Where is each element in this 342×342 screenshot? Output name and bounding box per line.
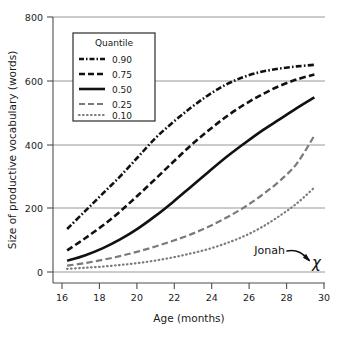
legend: Quantile 0.90 0.75 0.50 <box>73 33 155 121</box>
legend-title: Quantile <box>95 38 134 48</box>
y-axis-title: Size of productive vocabulary (words) <box>6 51 18 250</box>
x-tick-label-18: 18 <box>93 292 105 303</box>
y-tick-label-0: 0 <box>37 267 43 278</box>
jonah-data-point-marker: χ <box>311 254 322 272</box>
x-axis-tick-labels: 16 18 20 22 24 26 28 30 <box>56 292 330 303</box>
series-line-0.50 <box>67 97 314 261</box>
chart-figure: 800 600 400 200 0 16 18 20 22 24 26 28 3… <box>0 0 342 342</box>
x-tick-label-16: 16 <box>56 292 68 303</box>
jonah-label: Jonah <box>253 244 285 257</box>
x-tick-label-22: 22 <box>168 292 180 303</box>
legend-label-0.10: 0.10 <box>112 111 132 121</box>
x-tick-label-28: 28 <box>281 292 293 303</box>
quantile-growth-chart: 800 600 400 200 0 16 18 20 22 24 26 28 3… <box>0 0 342 342</box>
y-axis-tick-labels: 800 600 400 200 0 <box>25 12 43 278</box>
x-tick-label-24: 24 <box>206 292 218 303</box>
x-axis-ticks <box>62 283 324 289</box>
legend-label-0.50: 0.50 <box>112 85 132 95</box>
y-tick-label-200: 200 <box>25 203 43 214</box>
x-tick-label-30: 30 <box>318 292 330 303</box>
jonah-annotation: Jonah χ <box>253 244 322 272</box>
y-tick-label-400: 400 <box>25 140 43 151</box>
legend-label-0.25: 0.25 <box>112 100 132 110</box>
y-axis-ticks <box>47 17 53 272</box>
y-tick-label-800: 800 <box>25 12 43 23</box>
x-tick-label-26: 26 <box>243 292 255 303</box>
y-tick-label-600: 600 <box>25 76 43 87</box>
legend-label-0.75: 0.75 <box>112 70 132 80</box>
legend-label-0.90: 0.90 <box>112 55 132 65</box>
x-tick-label-20: 20 <box>131 292 143 303</box>
x-axis-title: Age (months) <box>153 312 224 324</box>
